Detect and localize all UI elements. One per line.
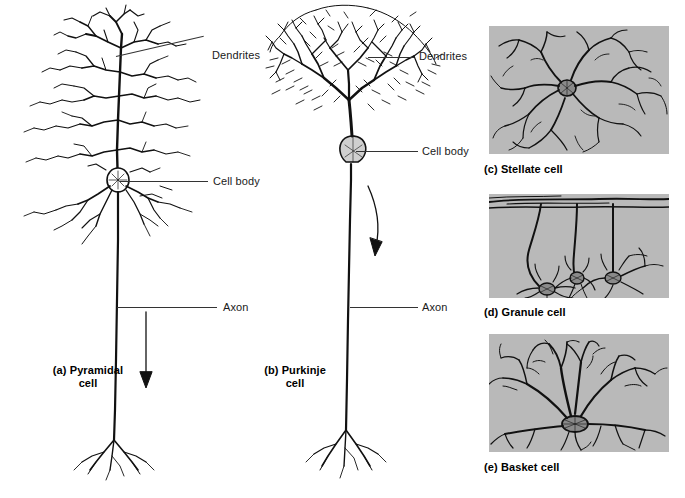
figure-canvas: Dendrites Cell body Axon (a) Pyramidal c…	[0, 0, 685, 498]
leader-line-purkinje-axon	[350, 307, 418, 308]
leader-line-purkinje-dendrites	[368, 57, 414, 58]
label-purkinje-cell-body: Cell body	[422, 145, 469, 157]
caption-granule-cell: (d) Granule cell	[484, 306, 566, 318]
panel-basket-cell	[489, 334, 669, 452]
purkinje-cell-illustration	[250, 0, 480, 498]
caption-pyramidal-line2: cell	[33, 377, 143, 389]
caption-pyramidal-line1: (a) Pyramidal	[33, 364, 143, 376]
leader-line-pyramidal-axon	[117, 307, 217, 308]
leader-line-purkinje-cellbody	[356, 151, 418, 152]
caption-stellate-cell: (c) Stellate cell	[484, 163, 563, 175]
pyramidal-cell-illustration	[0, 0, 260, 498]
panel-stellate-cell	[489, 26, 669, 154]
caption-basket-cell: (e) Basket cell	[484, 461, 559, 473]
label-purkinje-dendrites: Dendrites	[419, 50, 467, 62]
caption-purkinje-line2: cell	[240, 377, 350, 389]
label-pyramidal-cell-body: Cell body	[213, 175, 260, 187]
panel-granule-cell	[489, 194, 669, 298]
leader-line-pyramidal-cellbody	[120, 181, 208, 182]
label-purkinje-axon: Axon	[422, 301, 447, 313]
label-pyramidal-axon: Axon	[223, 301, 248, 313]
caption-purkinje-line1: (b) Purkinje	[240, 364, 350, 376]
label-pyramidal-dendrites: Dendrites	[212, 49, 260, 61]
